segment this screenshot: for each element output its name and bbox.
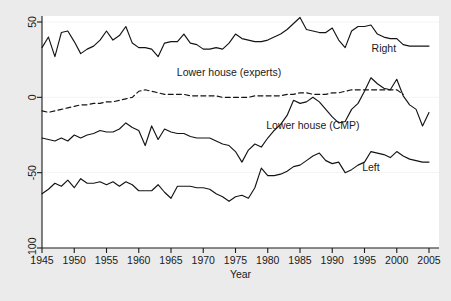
x-tick-label: 1950 xyxy=(63,254,87,266)
series-label-lower-house-cmp: Lower house (CMP) xyxy=(266,119,359,131)
y-tick-label: 0 xyxy=(26,94,38,100)
x-axis-title: Year xyxy=(230,268,252,280)
x-tick-label: 1970 xyxy=(192,254,216,266)
x-tick-label: 1980 xyxy=(256,254,280,266)
x-tick-label: 1985 xyxy=(288,254,312,266)
x-tick-label: 1990 xyxy=(321,254,345,266)
x-tick-label: 2005 xyxy=(417,254,441,266)
x-tick-label: 2000 xyxy=(385,254,409,266)
x-tick-label: 1960 xyxy=(127,254,151,266)
chart-figure: -100-50050194519501955196019651970197519… xyxy=(0,0,451,301)
line-chart: -100-50050194519501955196019651970197519… xyxy=(0,0,451,301)
x-tick-label: 1995 xyxy=(353,254,377,266)
x-tick-label: 1945 xyxy=(30,254,54,266)
x-tick-label: 1955 xyxy=(95,254,119,266)
x-tick-label: 1965 xyxy=(159,254,183,266)
y-tick-label: -50 xyxy=(26,165,38,180)
series-label-lower-house-experts: Lower house (experts) xyxy=(177,66,281,78)
series-label-right: Right xyxy=(372,42,397,54)
y-tick-label: 50 xyxy=(26,16,38,28)
series-label-left: Left xyxy=(362,161,380,173)
x-tick-label: 1975 xyxy=(224,254,248,266)
